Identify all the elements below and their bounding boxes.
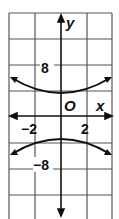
y-axis-label: y: [65, 14, 75, 31]
axes: [10, 15, 112, 216]
hyperbola-graph: 8 −8 −2 2 O x y: [0, 0, 119, 219]
x-axis-left-arrow-icon: [10, 113, 17, 119]
y-axis-up-arrow-icon: [58, 15, 64, 22]
x-axis-right-arrow-icon: [105, 113, 112, 119]
tick-label-y-8: 8: [41, 60, 49, 76]
x-axis-label: x: [95, 97, 105, 114]
tick-label-y-neg8: −8: [33, 157, 49, 173]
tick-label-x-2: 2: [81, 121, 89, 137]
tick-label-x-neg2: −2: [21, 121, 37, 137]
y-axis-down-arrow-icon: [58, 209, 64, 216]
origin-label: O: [64, 97, 76, 114]
